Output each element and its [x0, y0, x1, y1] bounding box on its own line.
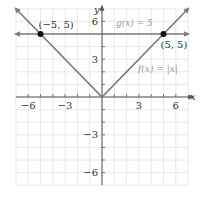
graph: −6−33663−3−6xyg(x) = 5f(x) = |x|(−5, 5)(…: [0, 0, 204, 199]
y-tick-label: −6: [83, 167, 98, 178]
x-tick-label: 3: [136, 100, 142, 111]
x-tick-label: −6: [21, 100, 36, 111]
y-tick-label: 6: [92, 16, 98, 27]
point-label: (5, 5): [161, 39, 188, 50]
x-axis-label: x: [190, 91, 196, 102]
y-axis-arrow-icon: [100, 5, 105, 11]
intersection-point: [161, 31, 167, 37]
arrow-icon: [14, 31, 20, 37]
y-axis-label: y: [93, 4, 100, 15]
arrow-icon: [184, 31, 190, 37]
y-tick-label: −3: [83, 129, 98, 140]
y-tick-label: 3: [92, 54, 98, 65]
point-label: (−5, 5): [39, 19, 74, 30]
x-tick-label: −3: [58, 100, 73, 111]
g-function-label: g(x) = 5: [116, 18, 153, 28]
intersection-point: [38, 31, 44, 37]
f-function-label: f(x) = |x|: [137, 64, 178, 75]
x-tick-label: 6: [173, 100, 179, 111]
